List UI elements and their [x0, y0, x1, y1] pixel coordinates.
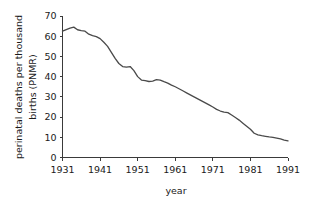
x-tick-label: 1961 [163, 164, 187, 175]
y-axis-title: perinatal deaths per thousand births (PN… [13, 15, 38, 159]
x-axis-title: year [165, 185, 186, 196]
y-tick-label: 20 [44, 111, 56, 122]
pnmr-series-line [63, 27, 289, 141]
x-tick-label: 1971 [201, 164, 225, 175]
x-tick-label: 1991 [276, 164, 300, 175]
pnmr-line-chart: perinatal deaths per thousand births (PN… [0, 0, 312, 201]
x-tick-label: 1981 [238, 164, 262, 175]
x-axis-ticks: 1931194119511961197119811991 [50, 158, 300, 175]
chart-canvas: perinatal deaths per thousand births (PN… [0, 0, 312, 201]
y-axis-ticks: 010203040506070 [44, 10, 62, 163]
x-tick-label: 1941 [88, 164, 112, 175]
y-axis-title-line2: births (PNMR) [27, 54, 38, 119]
y-tick-label: 50 [44, 51, 56, 62]
y-tick-label: 70 [44, 10, 56, 21]
x-tick-label: 1951 [126, 164, 150, 175]
y-axis-title-line1: perinatal deaths per thousand [13, 15, 24, 159]
y-tick-label: 10 [44, 132, 56, 143]
x-tick-label: 1931 [50, 164, 74, 175]
y-tick-label: 40 [44, 71, 56, 82]
y-tick-label: 0 [50, 152, 56, 163]
y-tick-label: 30 [44, 91, 56, 102]
y-tick-label: 60 [44, 31, 56, 42]
